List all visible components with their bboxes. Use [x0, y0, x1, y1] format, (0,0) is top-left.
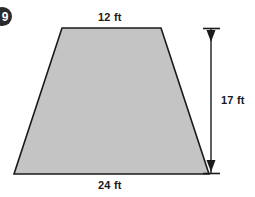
geometry-figure-canvas: 9 12 ft 24 ft 17 ft	[0, 0, 255, 197]
trapezoid-drawing	[0, 0, 255, 197]
trapezoid-shape	[14, 28, 209, 174]
height-label: 17 ft	[221, 95, 245, 106]
top-base-label: 12 ft	[98, 12, 122, 23]
bottom-base-label: 24 ft	[98, 180, 122, 191]
height-arrowhead-top-icon	[207, 30, 216, 42]
problem-number-text: 9	[0, 10, 8, 24]
